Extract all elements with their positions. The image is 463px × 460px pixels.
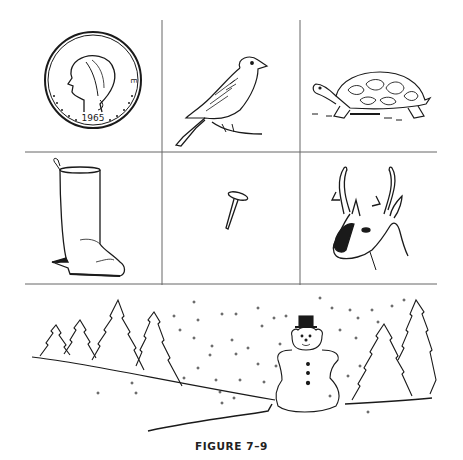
figure-illustration: E PLURIBUS UNUM 1965 bbox=[0, 0, 463, 460]
pine-trees-left bbox=[40, 300, 182, 386]
figure-7-9: E PLURIBUS UNUM 1965 bbox=[0, 0, 463, 460]
pine-trees-right bbox=[352, 300, 436, 400]
antelope-icon bbox=[332, 167, 408, 270]
tack-icon bbox=[226, 190, 249, 229]
coin-year: 1965 bbox=[82, 113, 105, 123]
grid-lines bbox=[25, 20, 437, 285]
boot-icon bbox=[52, 158, 125, 276]
bird-icon bbox=[176, 57, 267, 146]
figure-caption: FIGURE 7–9 bbox=[0, 440, 463, 452]
winter-scene bbox=[32, 297, 436, 431]
turtle-icon bbox=[312, 72, 430, 120]
coin-icon: E PLURIBUS UNUM 1965 bbox=[0, 0, 141, 128]
snowman bbox=[276, 316, 339, 412]
